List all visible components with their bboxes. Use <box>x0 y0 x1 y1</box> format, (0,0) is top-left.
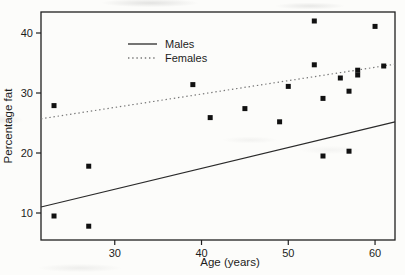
data-point <box>208 115 213 120</box>
data-point <box>338 76 343 81</box>
x-tick-label: 50 <box>282 247 294 259</box>
data-point <box>355 68 360 73</box>
data-point <box>52 103 57 108</box>
y-tick-label: 10 <box>21 207 33 219</box>
y-tick-label: 20 <box>21 147 33 159</box>
males-regression-line <box>41 122 395 207</box>
data-point <box>320 154 325 159</box>
y-axis-title: Percentage fat <box>2 88 14 164</box>
data-point <box>320 96 325 101</box>
data-point <box>286 84 291 89</box>
data-point <box>381 64 386 69</box>
data-point <box>347 89 352 94</box>
data-point <box>312 19 317 24</box>
plot-frame <box>41 12 395 240</box>
data-point <box>355 73 360 78</box>
females-regression-line <box>41 64 395 119</box>
data-point <box>312 62 317 67</box>
y-tick-label: 30 <box>21 87 33 99</box>
data-point <box>277 119 282 124</box>
x-tick-label: 60 <box>369 247 381 259</box>
data-point <box>190 82 195 87</box>
data-point <box>373 24 378 29</box>
legend-females-label: Females <box>165 52 208 64</box>
data-point <box>242 106 247 111</box>
data-point <box>52 214 57 219</box>
x-axis-title: Age (years) <box>200 256 260 268</box>
data-point <box>86 224 91 229</box>
scatter-plot-figure: 1020304030405060Age (years)Percentage fa… <box>0 0 405 275</box>
data-point <box>86 164 91 169</box>
y-tick-label: 40 <box>21 27 33 39</box>
legend-males-label: Males <box>165 38 195 50</box>
data-point <box>347 149 352 154</box>
x-tick-label: 30 <box>109 247 121 259</box>
plot-canvas: 1020304030405060Age (years)Percentage fa… <box>0 0 405 275</box>
